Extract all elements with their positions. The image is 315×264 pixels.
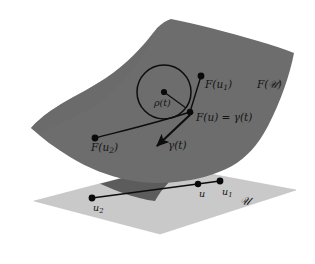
point-F-u-gamma-t [187, 109, 193, 115]
label-F-of-U-prefix: F( [257, 78, 268, 90]
label-F-u1: F(u1) [205, 79, 232, 92]
label-F-u2-prefix: F(u [91, 141, 109, 153]
figure-canvas: F(u1) F(𝒰) F(u) = γ(t) ρ(t) γ(t) F(u2) u… [0, 0, 315, 264]
diagram-svg [0, 0, 315, 264]
point-u [195, 181, 201, 187]
label-u2: u2 [93, 203, 103, 215]
label-F-u1-prefix: F(u [205, 78, 223, 90]
point-F-u1 [198, 73, 205, 80]
label-u: u [199, 189, 205, 199]
circle-center-point [161, 89, 167, 95]
label-domain-U: 𝒰 [240, 196, 250, 208]
label-u1-subscript: 1 [228, 191, 232, 199]
label-F-u-equals-gamma-t: F(u) = γ(t) [196, 112, 252, 123]
point-u2 [89, 195, 96, 202]
label-gamma-t: γ(t) [168, 140, 187, 151]
label-F-u2-suffix: ) [114, 141, 118, 153]
label-F-of-U-suffix: ) [277, 78, 281, 90]
point-u1 [217, 178, 224, 185]
label-u2-subscript: 2 [99, 207, 103, 215]
label-F-u1-suffix: ) [228, 78, 232, 90]
label-rho-t: ρ(t) [154, 98, 171, 108]
label-u1: u1 [222, 187, 232, 199]
label-F-of-U: F(𝒰) [257, 79, 282, 90]
label-F-u2: F(u2) [91, 142, 118, 155]
